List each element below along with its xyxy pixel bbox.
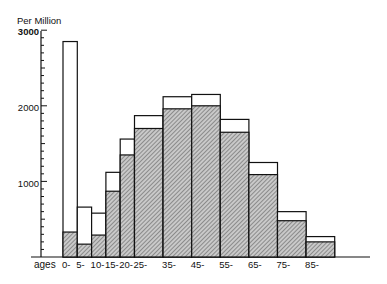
x-tick-label: 75-: [277, 259, 291, 270]
x-tick-label: 85-: [305, 259, 319, 270]
bar-20: [120, 139, 134, 257]
x-axis-title: ages: [34, 259, 56, 270]
x-tick-label: 35-: [162, 259, 176, 270]
bar-75: [278, 212, 307, 257]
y-tick-label-3000: 3000: [18, 26, 39, 37]
bar-15: [106, 172, 120, 257]
bar-25: [135, 116, 164, 257]
bar-85: [306, 237, 335, 257]
x-tick-label: 20-: [119, 259, 133, 270]
bar-0: [63, 42, 77, 257]
x-tick-label: 10-: [91, 259, 105, 270]
x-tick-label: 0-: [62, 259, 70, 270]
x-tick-label: 65-: [248, 259, 262, 270]
bar-65: [249, 163, 278, 258]
y-axis-ticks: [41, 30, 47, 249]
bar-55: [220, 119, 249, 257]
histogram-chart: Per Million ages 3000 2000 1000 0-5-10-1…: [0, 0, 387, 284]
y-axis-title: Per Million: [17, 15, 61, 26]
bar-35: [163, 97, 192, 257]
x-tick-label: 45-: [191, 259, 205, 270]
bar-45: [192, 94, 221, 257]
x-tick-label: 55-: [219, 259, 233, 270]
x-tick-labels: 0-5-10-15-20-25-35-45-55-65-75-85-: [62, 259, 319, 270]
y-tick-label-1000: 1000: [18, 178, 39, 189]
x-tick-label: 25-: [134, 259, 148, 270]
bar-5: [77, 207, 91, 257]
x-tick-label: 15-: [105, 259, 119, 270]
bars-group: [63, 42, 335, 257]
bar-10: [92, 213, 106, 257]
y-tick-label-2000: 2000: [18, 102, 39, 113]
x-tick-label: 5-: [76, 259, 84, 270]
